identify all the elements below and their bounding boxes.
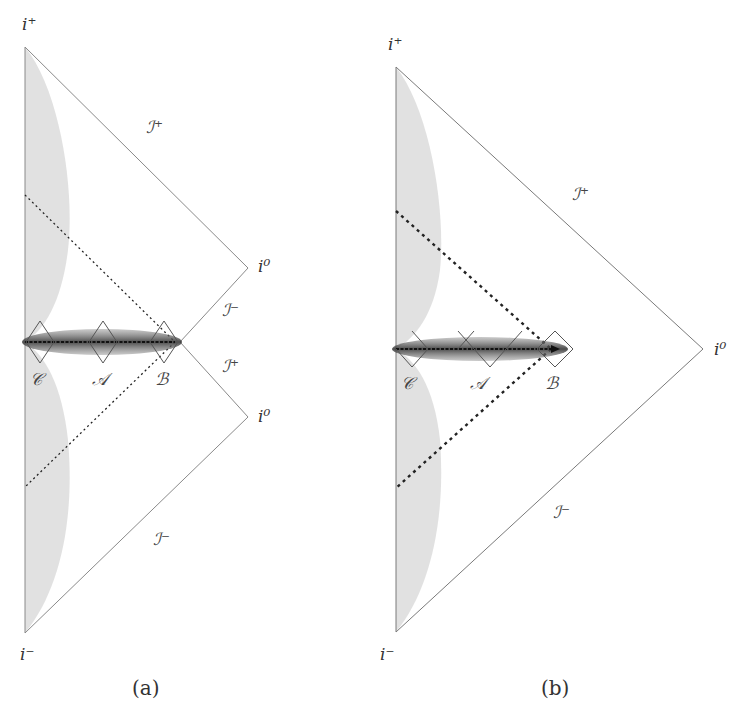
caption-b: (b) <box>541 676 569 700</box>
label-i0-lower: i⁰ <box>258 406 270 426</box>
shaded-region-upper <box>25 47 70 342</box>
label-scri-plus-mid: ℐ⁺ <box>222 356 239 376</box>
label-scri-minus: ℐ⁻ <box>553 502 570 522</box>
shaded-region-upper <box>396 67 441 349</box>
label-i-minus: i⁻ <box>380 644 394 664</box>
label-scri-minus-mid: ℐ⁻ <box>222 300 239 320</box>
panel-b: i⁺ i⁻ i⁰ ℐ⁺ ℐ⁻ 𝒞 𝒜 ℬ (b) <box>380 34 726 700</box>
label-i0-upper: i⁰ <box>258 256 270 276</box>
panel-a: i⁺ i⁻ i⁰ i⁰ ℐ⁺ ℐ⁻ ℐ⁺ ℐ⁻ 𝒞 𝒜 ℬ (a) <box>20 14 270 700</box>
label-i-plus: i⁺ <box>388 34 402 54</box>
label-scri-minus-bottom: ℐ⁻ <box>153 529 170 549</box>
label-region-B: ℬ <box>155 369 170 389</box>
label-scri-plus: ℐ⁺ <box>572 184 589 204</box>
label-i-plus: i⁺ <box>22 14 36 34</box>
label-i-minus: i⁻ <box>20 644 34 664</box>
label-region-A: 𝒜 <box>470 373 491 393</box>
caption-a: (a) <box>132 676 160 700</box>
label-i0: i⁰ <box>714 339 726 359</box>
label-region-A: 𝒜 <box>92 369 113 389</box>
penrose-diagrams: i⁺ i⁻ i⁰ i⁰ ℐ⁺ ℐ⁻ ℐ⁺ ℐ⁻ 𝒞 𝒜 ℬ (a) <box>0 0 746 718</box>
label-region-B: ℬ <box>545 373 560 393</box>
label-scri-plus-top: ℐ⁺ <box>146 117 163 137</box>
